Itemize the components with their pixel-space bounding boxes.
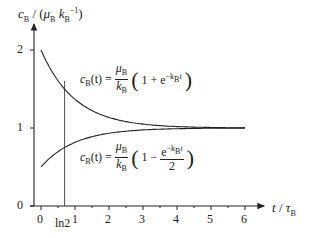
f1-exp: −k (166, 72, 175, 81)
f1-eq: = (105, 72, 112, 87)
y-tick-2: 2 (17, 42, 23, 57)
x-label-tau-sub: B (290, 209, 295, 218)
x-tick-ln2: ln2 (55, 216, 70, 231)
f1-k-sub: B (121, 87, 126, 96)
f2-two: 2 (160, 160, 183, 173)
y-axis-label: cB / (μB kB−1) (18, 6, 83, 24)
y-label-close: ) (78, 6, 82, 21)
x-tick-0: 0 (37, 212, 43, 227)
f1-arg: (t) (91, 72, 102, 86)
f1-exp-t: t (179, 72, 181, 81)
f2-fraction: μB kB (115, 140, 128, 176)
formula-upper: cB(t) = μB kB ( 1 + e−kBt ) (80, 62, 192, 98)
f2-arg: (t) (91, 150, 102, 164)
f2-k-sub: B (121, 165, 126, 174)
f2-exp-fraction: e−kBt 2 (160, 142, 183, 173)
y-label-sep: / ( (29, 6, 43, 21)
x-label-slash: / (276, 200, 286, 215)
f2-exp: −k (167, 144, 176, 153)
x-tick-6: 6 (241, 212, 247, 227)
x-axis-label: t / τB (272, 200, 296, 218)
f1-close: ) (185, 67, 192, 93)
f2-exp-t: t (180, 144, 182, 153)
x-tick-1: 1 (72, 212, 78, 227)
f2-body: 1 − (141, 150, 157, 165)
x-tick-5: 5 (207, 212, 213, 227)
x-tick-2: 2 (105, 212, 111, 227)
y-tick-1: 1 (17, 120, 23, 135)
f1-fraction: μB kB (115, 62, 128, 98)
f2-mu-sub: B (122, 146, 127, 155)
chart-plot (0, 0, 314, 238)
f2-close: ) (187, 145, 194, 171)
f2-eq: = (105, 150, 112, 165)
x-tick-4: 4 (173, 212, 179, 227)
formula-lower: cB(t) = μB kB ( 1 − e−kBt 2 ) (80, 140, 194, 176)
y-tick-0: 0 (17, 198, 23, 213)
f1-mu-sub: B (122, 68, 127, 77)
f1-open: ( (131, 67, 138, 93)
x-tick-3: 3 (139, 212, 145, 227)
f2-open: ( (131, 145, 138, 171)
f1-body: 1 + e (141, 73, 165, 87)
y-label-k-sub: B (64, 15, 69, 24)
